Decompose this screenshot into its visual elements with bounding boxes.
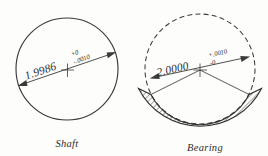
bearing-upper-tolerance: +.0010 bbox=[207, 47, 228, 58]
fit-tolerance-diagram: 1.9986 +0 -.0010 Shaft bbox=[0, 0, 268, 156]
shaft-dimension-text-group: 1.9986 +0 -.0010 bbox=[22, 45, 92, 82]
bearing-sectioned-band bbox=[139, 89, 262, 127]
bearing-caption: Bearing bbox=[187, 142, 223, 153]
bearing-figure: 2.0000 +.0010 -0 Bearing bbox=[139, 14, 262, 153]
shaft-figure: 1.9986 +0 -.0010 Shaft bbox=[16, 18, 118, 149]
shaft-caption: Shaft bbox=[55, 138, 79, 149]
bearing-leader-right bbox=[200, 70, 249, 95]
shaft-dimension-arrow-right bbox=[107, 52, 117, 58]
bearing-nominal-dimension: 2.0000 bbox=[155, 59, 189, 78]
bearing-band-outline bbox=[139, 89, 262, 127]
bearing-dimension-arrow-right bbox=[240, 56, 250, 62]
engineering-drawing-canvas: 1.9986 +0 -.0010 Shaft bbox=[0, 0, 268, 156]
bearing-lower-tolerance: -0 bbox=[209, 58, 217, 66]
